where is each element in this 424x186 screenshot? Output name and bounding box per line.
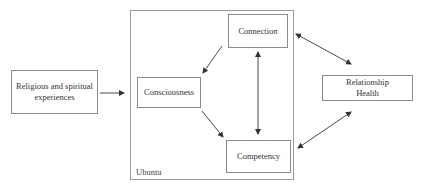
arrows-layer xyxy=(0,0,424,186)
arrow-connection-relationship xyxy=(296,34,351,64)
arrow-consciousness-to-competency xyxy=(202,111,223,137)
arrow-competency-relationship xyxy=(298,112,351,148)
arrow-connection-to-consciousness xyxy=(203,46,222,73)
